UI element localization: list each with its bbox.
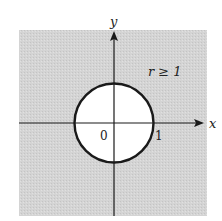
y-axis-label: y xyxy=(109,14,118,29)
origin-label: 0 xyxy=(100,129,108,143)
x-axis-label: x xyxy=(209,116,217,131)
unit-tick-label: 1 xyxy=(155,129,163,143)
polar-region-diagram: y x 0 1 r ≥ 1 xyxy=(0,0,222,221)
region-label: r ≥ 1 xyxy=(148,64,182,79)
